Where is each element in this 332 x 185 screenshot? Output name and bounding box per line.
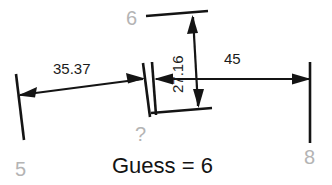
node-label-bottom-right: 8: [304, 146, 315, 168]
guess-caption: Guess = 6: [112, 153, 213, 178]
extension-line-left: [16, 74, 24, 140]
diagram-canvas: 35.37 45 27.16 6 5 ? 8 Guess = 6: [0, 0, 332, 185]
arrowhead-left-end: [126, 73, 145, 84]
dimension-diagram: 35.37 45 27.16 6 5 ? 8 Guess = 6: [0, 0, 332, 185]
arrowhead-vertical-top: [187, 15, 198, 34]
dimension-label-right: 45: [224, 50, 241, 67]
dimension-vertical-27: 27.16: [169, 15, 204, 108]
extension-line-center-b: [152, 62, 156, 115]
extension-line-top: [146, 11, 208, 16]
dimension-label-left: 35.37: [53, 60, 91, 77]
extension-line-center-a: [143, 63, 150, 117]
node-label-bottom-center: ?: [135, 123, 146, 145]
extension-line-bottom: [151, 108, 212, 113]
dimension-line-left: [20, 79, 143, 95]
arrowhead-vertical-bottom: [193, 89, 204, 108]
dimension-label-vertical: 27.16: [169, 55, 186, 93]
node-label-top: 6: [126, 7, 137, 29]
arrowhead-right-end: [292, 74, 311, 85]
node-label-bottom-left: 5: [15, 158, 26, 180]
dimension-left-35: 35.37: [18, 60, 145, 98]
